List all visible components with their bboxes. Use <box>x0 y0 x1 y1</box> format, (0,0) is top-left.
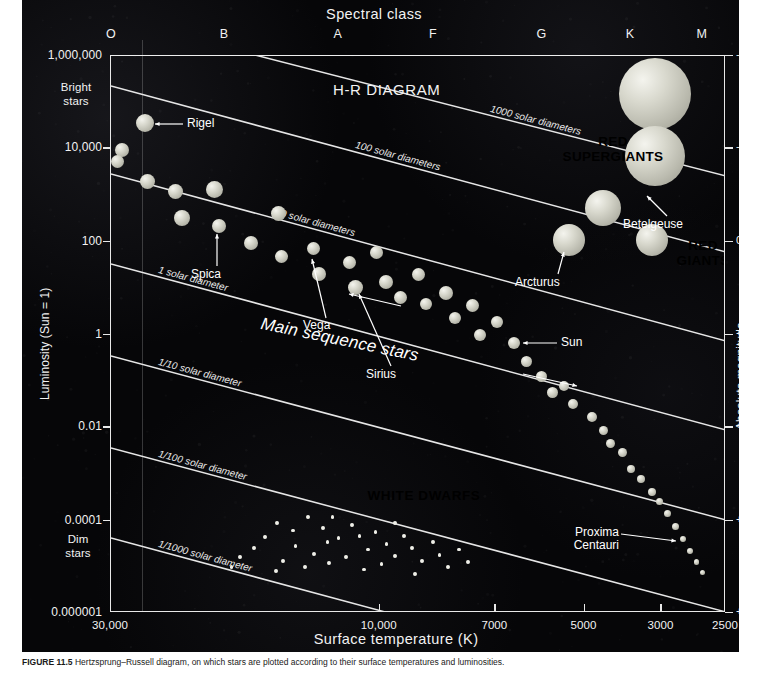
callout-proxima-centauri: ProximaCentauri <box>574 526 619 552</box>
y-tick-label-3: 1 <box>22 327 102 341</box>
y2-tick-mark-2 <box>725 241 733 242</box>
x-tick-label-4: 3000 <box>647 619 673 631</box>
callout-sun: Sun <box>561 336 582 349</box>
bright-stars-note: Brightstars <box>50 80 102 108</box>
spica-leader <box>215 234 219 266</box>
y-tick-mark-1 <box>103 147 110 148</box>
y-tick-label-6: 0.000001 <box>22 605 102 619</box>
y2-tick-label-3: +5 <box>736 327 739 339</box>
y-tick-label-0: 1,000,000 <box>22 48 102 62</box>
callout-spica: Spica <box>191 268 221 281</box>
y-tick-label-5: 0.0001 <box>22 513 102 527</box>
y-tick-mark-4 <box>103 426 110 427</box>
y-tick-mark-2 <box>103 241 110 242</box>
y2-tick-label-6: +20 <box>736 605 739 617</box>
y-axis-title: Luminosity (Sun = 1) <box>38 288 52 400</box>
main-sequence-arrow-left <box>349 293 401 306</box>
proxima-leader <box>621 534 676 542</box>
callout-sirius: Sirius <box>366 368 396 381</box>
y2-tick-mark-3 <box>725 334 733 335</box>
y2-tick-label-2: 0 <box>736 234 739 246</box>
y2-tick-label-1: -5 <box>736 140 739 152</box>
y-tick-label-2: 100 <box>22 234 102 248</box>
caption-label: FIGURE 11.5 <box>22 657 73 667</box>
spectral-class-title: Spectral class <box>326 6 422 22</box>
vega-leader <box>311 259 326 318</box>
spectral-class-A: A <box>334 27 342 41</box>
region-label-white-dwarfs: WHITE DWARFS <box>339 488 509 503</box>
x-tick-label-2: 7000 <box>481 619 507 631</box>
spectral-class-K: K <box>626 27 634 41</box>
spectral-class-B: B <box>220 27 228 41</box>
y-tick-label-4: 0.01 <box>22 419 102 433</box>
y-tick-mark-5 <box>103 520 110 521</box>
region-label-red-supergiants: REDSUPERGIANTS <box>548 134 678 164</box>
spectral-class-G: G <box>537 27 547 41</box>
plot-area: 1000 solar diameters100 solar diameters1… <box>110 55 725 612</box>
diagram-title: H-R DIAGRAM <box>333 81 440 98</box>
y2-tick-label-0: -10 <box>736 48 739 60</box>
callout-betelgeuse: Betelgeuse <box>623 218 683 231</box>
arcturus-leader <box>558 252 565 274</box>
dim-stars-note: Dimstars <box>52 532 104 560</box>
x-tick-label-5: 2500 <box>712 619 738 631</box>
x-tick-label-0: 30,000 <box>92 619 128 631</box>
rigel-leader <box>155 122 183 126</box>
sun-leader <box>523 341 557 345</box>
x-axis-title: Surface temperature (K) <box>314 631 479 647</box>
hr-diagram-figure: Spectral class OBAFGKM Luminosity (Sun =… <box>22 0 739 652</box>
main-sequence-arrow-right <box>523 374 577 387</box>
x-tick-label-3: 5000 <box>571 619 597 631</box>
callout-arcturus: Arcturus <box>515 276 560 289</box>
y2-tick-mark-6 <box>725 612 733 613</box>
betelgeuse-leader <box>647 196 667 216</box>
spectral-class-M: M <box>696 27 707 41</box>
x-tick-label-1: 10,000 <box>361 619 397 631</box>
y-tick-label-1: 10,000 <box>22 140 102 154</box>
caption-text: Hertzsprung–Russell diagram, on which st… <box>75 657 504 667</box>
y2-tick-mark-1 <box>725 147 733 148</box>
figure-page: Spectral class OBAFGKM Luminosity (Sun =… <box>0 0 761 674</box>
callout-rigel: Rigel <box>187 117 214 130</box>
spectral-class-F: F <box>429 27 437 41</box>
y2-tick-label-5: +15 <box>736 513 739 525</box>
y2-tick-mark-5 <box>725 520 733 521</box>
y-tick-mark-3 <box>103 334 110 335</box>
y2-tick-mark-4 <box>725 426 733 427</box>
y2-tick-label-4: +10 <box>736 419 739 431</box>
spectral-class-O: O <box>106 27 116 41</box>
figure-caption: FIGURE 11.5 Hertzsprung–Russell diagram,… <box>22 657 739 674</box>
y2-tick-mark-0 <box>725 55 733 56</box>
region-label-red-giants: REDGIANTS <box>661 238 724 268</box>
